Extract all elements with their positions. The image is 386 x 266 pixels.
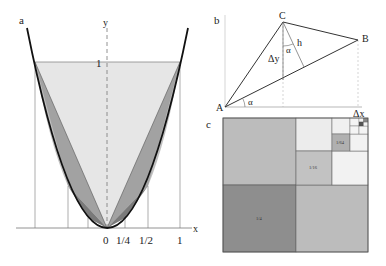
area-label-sixteenth: 1/16	[309, 165, 318, 170]
triangle-abc	[225, 22, 358, 107]
x-tick-1: 1	[177, 234, 183, 246]
point-c: C	[279, 10, 286, 21]
square-1024-bl	[359, 122, 364, 126]
alpha-arc-a	[243, 99, 245, 107]
square-256-bl	[350, 126, 359, 134]
square-tr-tl	[296, 118, 332, 151]
y-tick-1: 1	[96, 57, 102, 69]
panel-a: a y 1 x 0 1/4 1/2 1	[16, 14, 198, 246]
x-tick-0: 0	[103, 234, 109, 246]
point-b: B	[362, 33, 369, 44]
square-1024-tr	[364, 118, 369, 122]
square-64-br	[350, 134, 368, 151]
panel-b-label: b	[214, 14, 220, 26]
square-256-br	[359, 126, 368, 134]
panel-c: c 1/4 1/16 1/64	[206, 118, 368, 252]
square-bottom-right	[296, 185, 368, 252]
x-tick-quarter: 1/4	[116, 234, 131, 246]
alpha-label-c: α	[286, 45, 291, 55]
square-top-left	[223, 118, 296, 185]
alpha-label-a: α	[248, 97, 253, 107]
area-label-sixtyfourth: 1/64	[336, 140, 345, 145]
square-64-tl	[332, 118, 350, 134]
figure: a y 1 x 0 1/4 1/2 1 b C B A h Δy α α Δx	[0, 0, 386, 266]
h-label: h	[297, 37, 302, 48]
x-axis-label: x	[193, 223, 198, 234]
area-label-quarter: 1/4	[256, 216, 263, 221]
square-1024-tl	[359, 118, 364, 122]
panel-c-label: c	[206, 118, 211, 130]
square-tr-br	[332, 151, 368, 185]
x-tick-half: 1/2	[139, 234, 153, 246]
point-a: A	[216, 102, 224, 113]
square-256-tl	[350, 118, 359, 126]
delta-y-label: Δy	[268, 53, 279, 64]
delta-x-label: Δx	[353, 108, 364, 119]
panel-a-label: a	[19, 14, 24, 26]
y-axis-label: y	[103, 17, 108, 28]
square-1024-br	[364, 122, 369, 126]
panel-b: b C B A h Δy α α Δx	[214, 10, 369, 119]
